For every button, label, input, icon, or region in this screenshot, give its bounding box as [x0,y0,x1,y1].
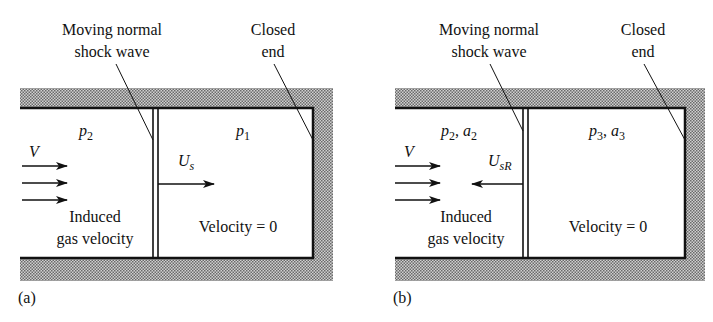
shock-velocity-label: UsR [488,152,512,173]
shock-velocity-label: Us [178,152,195,173]
velocity-symbol: V [29,143,41,160]
zero-velocity-label: Velocity = 0 [569,218,647,236]
shock-label: Moving normal [439,21,540,39]
state-label-right: p1 [235,122,250,143]
closed-end-label: Closed [621,21,665,38]
induced-velocity-label: Induced [69,208,121,225]
zero-velocity-label: Velocity = 0 [199,218,277,236]
closed-end-label: Closed [251,21,295,38]
shock-tube-diagram: Moving normal shock wave Closed end p2 p… [0,0,713,322]
state-label-right: p3, a3 [588,122,625,143]
shock-label: Moving normal [62,21,163,39]
closed-end-label: end [261,43,284,60]
tube-wall-shade [395,88,705,281]
panel-caption: (b) [393,289,412,307]
shock-label: shock wave [451,43,526,60]
shock-label: shock wave [74,43,149,60]
state-label-left: p2, a2 [440,122,477,143]
panel-a: Moving normal shock wave Closed end p2 p… [18,21,333,307]
panel-caption: (a) [18,289,36,307]
induced-velocity-label: gas velocity [428,230,505,248]
velocity-symbol: V [404,143,416,160]
panel-b: Moving normal shock wave Closed end p2, … [393,21,705,307]
induced-velocity-label: gas velocity [57,230,134,248]
closed-end-label: end [631,43,654,60]
induced-velocity-label: Induced [440,208,492,225]
state-label-left: p2 [78,122,93,143]
